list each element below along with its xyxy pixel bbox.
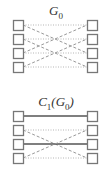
left-node-3: [14, 140, 24, 150]
graph-g0: [14, 21, 98, 73]
right-node-2: [88, 126, 98, 136]
right-node-3: [88, 49, 98, 59]
left-node-3: [14, 49, 24, 59]
left-node-1: [14, 21, 24, 31]
left-node-1: [14, 112, 24, 122]
graph-c1: [14, 112, 98, 164]
right-node-1: [88, 112, 98, 122]
right-node-4: [88, 154, 98, 164]
right-node-2: [88, 35, 98, 45]
bipartite-diagram: [0, 0, 112, 189]
left-node-2: [14, 126, 24, 136]
right-node-4: [88, 63, 98, 73]
right-node-3: [88, 140, 98, 150]
left-node-4: [14, 63, 24, 73]
right-node-1: [88, 21, 98, 31]
left-node-2: [14, 35, 24, 45]
left-node-4: [14, 154, 24, 164]
